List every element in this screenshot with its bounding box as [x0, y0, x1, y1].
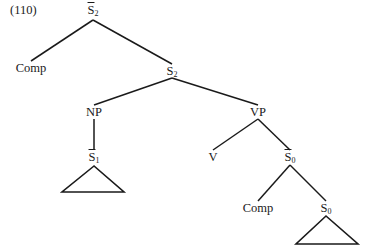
node-v: V	[208, 150, 217, 164]
node-sbar0: S0	[285, 150, 296, 168]
node-comp2: Comp	[243, 201, 274, 215]
node-vp: VP	[250, 105, 266, 119]
subtree-triangle	[62, 166, 124, 192]
tree-branch	[93, 20, 172, 64]
tree-branch	[258, 119, 290, 150]
node-comp1: Comp	[16, 61, 47, 75]
tree-branch	[172, 78, 258, 105]
tree-lines	[0, 0, 371, 252]
node-sbar2: S2	[88, 3, 99, 21]
subtree-triangle	[296, 216, 358, 244]
tree-branch	[31, 20, 93, 61]
tree-branch	[290, 165, 326, 201]
node-s0: S0	[321, 201, 332, 219]
tree-branch	[213, 119, 258, 150]
tree-branch	[94, 78, 172, 105]
tree-branch	[258, 165, 290, 201]
node-s2: S2	[167, 64, 178, 82]
node-np: NP	[86, 105, 102, 119]
node-sbar1: S1	[89, 150, 100, 168]
